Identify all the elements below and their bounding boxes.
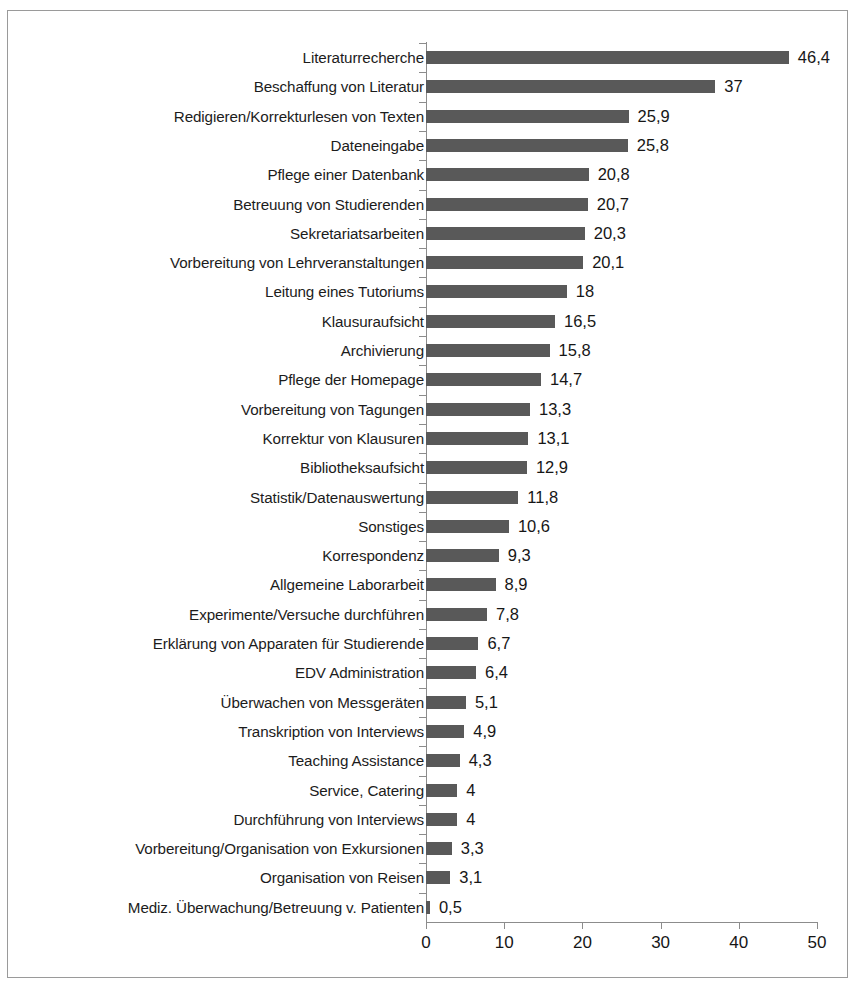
bar-row: Literaturrecherche46,4	[8, 43, 849, 72]
category-label: Erklärung von Apparaten für Studierende	[153, 629, 424, 658]
bar-value-label: 0,5	[439, 893, 462, 922]
x-axis-tick	[661, 922, 662, 929]
bar	[426, 754, 460, 767]
bar	[426, 608, 487, 621]
bar-value-label: 3,3	[461, 834, 484, 863]
x-axis-tick-label: 30	[631, 933, 691, 953]
bar-row: Beschaffung von Literatur37	[8, 72, 849, 101]
bar	[426, 784, 457, 797]
bar-value-label: 13,1	[537, 424, 569, 453]
bar-value-label: 4	[466, 776, 475, 805]
bar-value-label: 3,1	[459, 863, 482, 892]
category-label: Durchführung von Interviews	[233, 805, 424, 834]
category-label: Klausuraufsicht	[322, 307, 424, 336]
bar-value-label: 6,4	[485, 658, 508, 687]
category-label: Bibliotheksaufsicht	[300, 453, 424, 482]
bar-row: Allgemeine Laborarbeit8,9	[8, 570, 849, 599]
category-label: Betreuung von Studierenden	[233, 190, 424, 219]
x-axis-line	[426, 922, 817, 923]
bar	[426, 842, 452, 855]
bar-row: Sonstiges10,6	[8, 512, 849, 541]
bar	[426, 110, 629, 123]
bar-row: Korrektur von Klausuren13,1	[8, 424, 849, 453]
category-label: Sonstiges	[358, 512, 424, 541]
bar	[426, 285, 567, 298]
category-label: Vorbereitung von Tagungen	[241, 395, 424, 424]
x-axis-tick	[582, 922, 583, 929]
bar-value-label: 14,7	[550, 365, 582, 394]
bar-value-label: 37	[724, 72, 742, 101]
category-label: Organisation von Reisen	[260, 863, 424, 892]
category-label: Service, Catering	[309, 776, 424, 805]
bar-row: Dateneingabe25,8	[8, 131, 849, 160]
bar-row: Vorbereitung von Lehrveranstaltungen20,1	[8, 248, 849, 277]
bar-value-label: 20,7	[597, 190, 629, 219]
bar-value-label: 4	[466, 805, 475, 834]
chart-frame: Literaturrecherche46,4Beschaffung von Li…	[7, 10, 848, 978]
x-axis-tick-label: 0	[396, 933, 456, 953]
x-axis-tick	[817, 922, 818, 929]
bar-value-label: 25,9	[638, 102, 670, 131]
x-axis-tick-label: 50	[787, 933, 847, 953]
category-label: Beschaffung von Literatur	[254, 72, 424, 101]
bar-row: Überwachen von Messgeräten5,1	[8, 688, 849, 717]
category-label: Redigieren/Korrekturlesen von Texten	[174, 102, 424, 131]
bar-row: Statistik/Datenauswertung11,8	[8, 483, 849, 512]
category-label: Dateneingabe	[331, 131, 424, 160]
bar-row: Korrespondenz9,3	[8, 541, 849, 570]
bar-row: Archivierung15,8	[8, 336, 849, 365]
bar-row: EDV Administration6,4	[8, 658, 849, 687]
category-label: Mediz. Überwachung/Betreuung v. Patiente…	[128, 893, 424, 922]
bar-value-label: 25,8	[637, 131, 669, 160]
bar-row: Mediz. Überwachung/Betreuung v. Patiente…	[8, 893, 849, 922]
x-axis-tick-label: 10	[474, 933, 534, 953]
bar	[426, 461, 527, 474]
bar-value-label: 20,3	[594, 219, 626, 248]
bar-value-label: 6,7	[487, 629, 510, 658]
bar-row: Vorbereitung/Organisation von Exkursione…	[8, 834, 849, 863]
bar-row: Organisation von Reisen3,1	[8, 863, 849, 892]
bar-value-label: 4,3	[469, 746, 492, 775]
bar	[426, 696, 466, 709]
bar-value-label: 8,9	[505, 570, 528, 599]
category-label: Archivierung	[341, 336, 424, 365]
bar-value-label: 12,9	[536, 453, 568, 482]
bar-value-label: 9,3	[508, 541, 531, 570]
bar	[426, 666, 476, 679]
bar	[426, 549, 499, 562]
bar-row: Durchführung von Interviews4	[8, 805, 849, 834]
category-label: Statistik/Datenauswertung	[250, 483, 424, 512]
bar-value-label: 13,3	[539, 395, 571, 424]
bar	[426, 168, 589, 181]
bar	[426, 520, 509, 533]
bar	[426, 227, 585, 240]
bar	[426, 256, 583, 269]
category-label: Vorbereitung von Lehrveranstaltungen	[170, 248, 424, 277]
category-label: Allgemeine Laborarbeit	[270, 570, 424, 599]
bar-value-label: 15,8	[559, 336, 591, 365]
bar-row: Erklärung von Apparaten für Studierende6…	[8, 629, 849, 658]
bar-value-label: 20,8	[598, 160, 630, 189]
bar-row: Transkription von Interviews4,9	[8, 717, 849, 746]
bar-value-label: 46,4	[798, 43, 830, 72]
x-axis-tick	[504, 922, 505, 929]
bar-row: Klausuraufsicht16,5	[8, 307, 849, 336]
bar-row: Service, Catering4	[8, 776, 849, 805]
bar	[426, 491, 518, 504]
category-label: Pflege einer Datenbank	[267, 160, 424, 189]
x-axis-tick-label: 20	[552, 933, 612, 953]
bar	[426, 198, 588, 211]
bar	[426, 871, 450, 884]
bar	[426, 315, 555, 328]
bar	[426, 403, 530, 416]
bar-chart-plot-area: Literaturrecherche46,4Beschaffung von Li…	[8, 11, 849, 979]
category-label: Teaching Assistance	[288, 746, 424, 775]
bar-value-label: 5,1	[475, 688, 498, 717]
bar	[426, 637, 478, 650]
bar-value-label: 10,6	[518, 512, 550, 541]
category-label: Vorbereitung/Organisation von Exkursione…	[135, 834, 424, 863]
category-label: Korrektur von Klausuren	[263, 424, 424, 453]
bar	[426, 725, 464, 738]
x-axis-tick-label: 40	[709, 933, 769, 953]
bar-row: Teaching Assistance4,3	[8, 746, 849, 775]
